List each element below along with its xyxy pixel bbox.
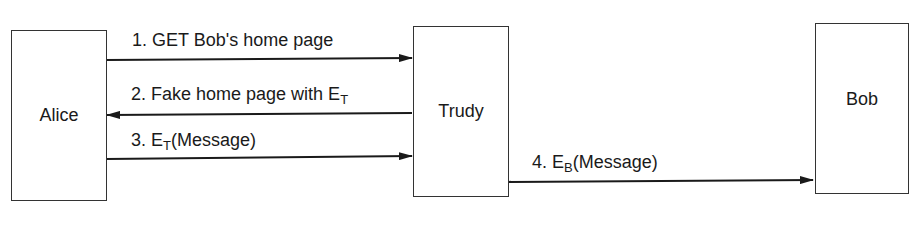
arrow-4-trudy-to-bob <box>508 180 813 182</box>
arrow-1-alice-to-trudy <box>106 58 412 60</box>
arrow-3-alice-to-trudy <box>106 156 412 159</box>
node-bob-label: Bob <box>846 89 878 110</box>
node-bob: Bob <box>815 23 909 194</box>
message-1-label: 1. GET Bob's home page <box>132 31 333 49</box>
message-3-label: 3. ET(Message) <box>131 131 256 152</box>
node-alice: Alice <box>11 30 107 201</box>
node-alice-label: Alice <box>39 105 78 126</box>
node-trudy: Trudy <box>413 26 509 197</box>
message-2-label: 2. Fake home page with ET <box>131 85 348 106</box>
message-4-label: 4. EB(Message) <box>532 153 658 174</box>
node-trudy-label: Trudy <box>438 101 483 122</box>
arrow-2-trudy-to-alice <box>107 113 412 115</box>
